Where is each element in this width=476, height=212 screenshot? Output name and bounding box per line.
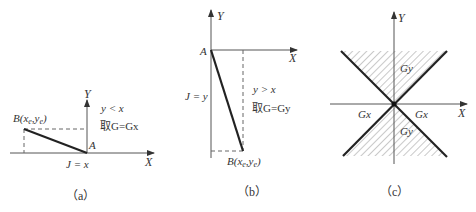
x-axis-label: X (144, 155, 153, 169)
condition-label: y > x (252, 83, 276, 95)
point-a-label: A (88, 139, 96, 151)
panel-c: X Y Gy Gy Gx Gx （c） (330, 11, 467, 199)
panel-a: X Y B(xe,ye) A y < x 取G=Gx J = x （a） (10, 87, 154, 203)
region-label-left: Gx (358, 108, 371, 120)
region-label-top: Gy (400, 62, 413, 74)
y-axis-label: Y (84, 87, 92, 101)
y-axis-label: Y (398, 11, 406, 25)
rule-label: 取G=Gx (100, 120, 139, 132)
rule-label: 取G=Gy (252, 102, 291, 114)
caption-a: （a） (66, 189, 95, 203)
condition-label: y < x (100, 102, 124, 114)
point-b-label: B(xe,ye) (227, 155, 261, 169)
point-a-label: A (199, 45, 207, 57)
line-segment-ab (24, 129, 87, 153)
region-label-right: Gx (415, 108, 428, 120)
x-axis-label: X (288, 51, 297, 65)
origin-point (392, 102, 397, 107)
panel-b: Y X A B(xe,ye) y > x 取G=Gy J = y （b） (185, 9, 297, 199)
figure-canvas: X Y B(xe,ye) A y < x 取G=Gx J = x （a） Y X… (0, 0, 476, 212)
region-label-bottom: Gy (400, 125, 413, 137)
x-axis-label: X (457, 106, 466, 120)
y-axis-label: Y (217, 9, 225, 23)
caption-c: （c） (380, 185, 409, 199)
caption-b: （b） (237, 185, 267, 199)
line-segment-ab (211, 50, 243, 151)
point-b-label: B(xe,ye) (13, 112, 47, 126)
counter-label: J = x (66, 158, 89, 170)
counter-label: J = y (185, 90, 208, 102)
